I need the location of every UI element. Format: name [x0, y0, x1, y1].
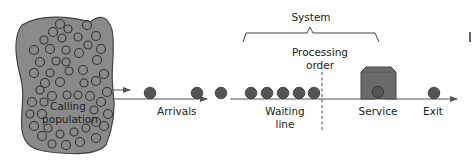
waiting-line-label-2: line	[276, 118, 295, 130]
arrivals-label: Arrivals	[157, 105, 197, 117]
waiting-line-label: Waiting	[265, 105, 304, 117]
processing-order-label: Processing	[292, 46, 348, 58]
calling-population-label: Calling	[50, 100, 86, 112]
exit-customer	[428, 87, 440, 99]
service-label: Service	[359, 105, 398, 117]
exit-label: Exit	[423, 105, 443, 117]
calling-population-label-2: population	[42, 113, 98, 125]
arrival-customers	[144, 87, 227, 99]
system-brace	[243, 27, 379, 42]
queuing-diagram: Calling population Arrivals Waiting line…	[0, 0, 473, 165]
service-facility	[361, 67, 396, 99]
system-label: System	[291, 11, 330, 23]
calling-population	[16, 17, 114, 153]
processing-order-label-2: order	[306, 59, 335, 71]
waiting-line-customers	[245, 87, 320, 99]
